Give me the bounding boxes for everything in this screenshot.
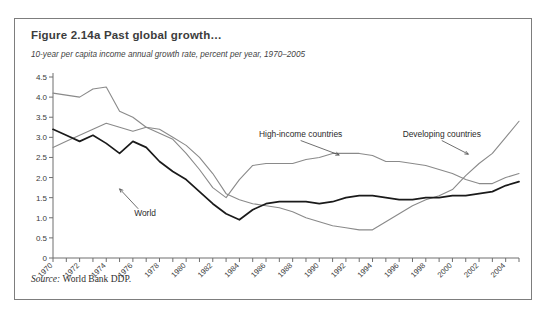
x-axis-tick-label: 1986 <box>249 261 267 279</box>
y-axis-tick-label: 2.0 <box>36 174 48 183</box>
x-axis-tick-label: 1992 <box>329 261 347 279</box>
x-axis-tick-label: 2002 <box>462 261 480 279</box>
y-axis-tick-label: 3.5 <box>36 113 48 122</box>
x-axis-tick-label: 2004 <box>489 261 507 279</box>
y-axis-tick-label: 3.0 <box>36 133 48 142</box>
annotation-arrow-world <box>120 189 139 209</box>
x-axis-tick-label: 1978 <box>143 261 161 279</box>
y-axis-tick-label: 4.0 <box>36 93 48 102</box>
x-axis-tick-label: 1990 <box>302 261 320 279</box>
annotation-arrow-high-income <box>301 141 340 156</box>
x-axis-tick-label: 1996 <box>382 261 400 279</box>
x-axis-tick-label: 1988 <box>276 261 294 279</box>
y-axis-tick-label: 1.0 <box>36 214 48 223</box>
y-axis-tick-label: 2.5 <box>36 153 48 162</box>
x-axis-tick-label: 1982 <box>196 261 214 279</box>
x-axis-tick-label: 1980 <box>169 261 187 279</box>
y-axis-tick-label: 1.5 <box>36 194 48 203</box>
source-label: Source: <box>31 274 60 284</box>
source-text: World Bank DDP. <box>62 274 131 284</box>
figure-source: Source: World Bank DDP. <box>31 274 131 284</box>
annotation-label-developing: Developing countries <box>403 129 481 139</box>
annotation-label-high-income: High-income countries <box>259 129 342 139</box>
series-line-world <box>53 129 519 219</box>
x-axis-tick-label: 2000 <box>436 261 454 279</box>
figure-panel: Figure 2.14a Past global growth… 10-year… <box>14 18 532 300</box>
y-axis-tick-label: 4.5 <box>36 73 48 82</box>
line-chart: 00.51.01.52.02.53.03.54.04.5197019721974… <box>15 19 533 301</box>
x-axis-tick-label: 1998 <box>409 261 427 279</box>
x-axis-tick-label: 1984 <box>222 261 240 279</box>
y-axis-tick-label: 0.5 <box>36 234 48 243</box>
annotation-label-world: World <box>134 208 156 218</box>
x-axis-tick-label: 1994 <box>356 261 374 279</box>
series-line-high-income-countries <box>53 87 519 198</box>
annotation-arrow-developing <box>442 141 469 155</box>
